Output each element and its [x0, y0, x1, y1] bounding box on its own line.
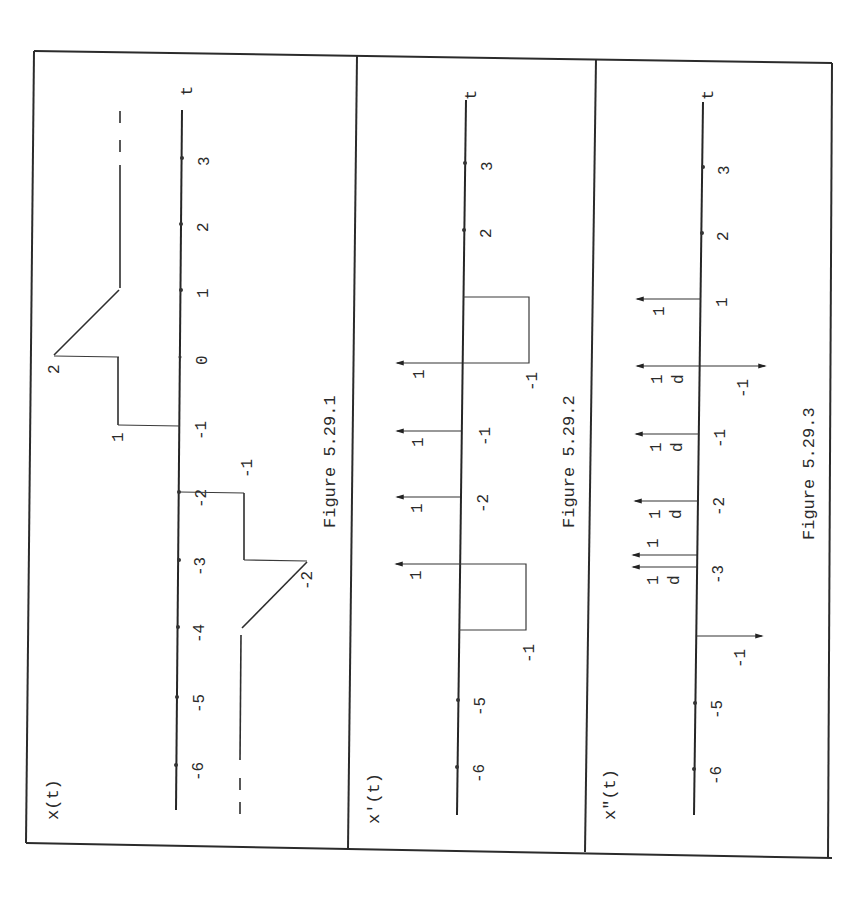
impulse-labels: 1 1 1 1 -1 -1 [408, 369, 542, 663]
panel-divider-2 [585, 59, 596, 852]
impulse-label: -1 [735, 379, 753, 398]
tick-label: -6 [708, 766, 726, 785]
level-label: -1 [521, 644, 539, 663]
doublet-labels: d d d d [666, 374, 688, 585]
doublet-label: d [670, 374, 688, 384]
tick-label: -6 [471, 764, 489, 783]
tick-label: -5 [709, 700, 727, 719]
impulses [396, 363, 462, 564]
tick-labels: 3 2 -1 -2 -5 -6 [471, 161, 497, 783]
impulse-label: 1 [647, 509, 665, 519]
frame [26, 51, 832, 858]
signal-label-x-prime: x′(t) [365, 773, 384, 824]
impulse-label: 1 [645, 538, 663, 548]
tick-label: 1 [195, 288, 213, 298]
axis-label-t: t [699, 90, 718, 100]
frame-left-edge [26, 51, 34, 843]
axis-label-t: t [462, 90, 481, 100]
impulse-label: 1 [410, 437, 428, 447]
impulse-label: 1 [651, 306, 669, 316]
tick-label: -1 [193, 421, 211, 440]
tick-labels: 3 2 1 -1 -2 -3 -5 -6 [708, 165, 734, 785]
time-axis [457, 100, 466, 815]
impulse-label: -1 [732, 649, 750, 668]
doublet-label: d [669, 442, 687, 452]
impulse-label: 1 [645, 575, 663, 585]
frame-bottom-edge [26, 843, 832, 858]
tick-label: -2 [475, 494, 493, 513]
tick-label: -1 [712, 429, 730, 448]
panel-x-prime: x′(t) t 3 2 -1 -2 -5 -6 [365, 90, 579, 824]
time-axis [694, 102, 703, 815]
signal-label-x: x(t) [44, 779, 63, 820]
tick-label: -5 [472, 697, 490, 716]
tick-label: -6 [190, 762, 208, 781]
signal-label-x-double-prime: x″(t) [601, 769, 620, 820]
frame-top-edge [34, 51, 832, 63]
value-labels: 2 1 -1 -2 [46, 364, 317, 590]
tick-label: 2 [478, 228, 496, 238]
impulse-label: 1 [411, 369, 429, 379]
impulse-label: 1 [648, 442, 666, 452]
figure-caption-3: Figure 5.29.3 [800, 407, 819, 540]
figure-caption-1: Figure 5.29.1 [321, 395, 340, 528]
tick-label: 3 [479, 161, 497, 171]
panel-x-double-prime: x″(t) t 3 2 1 -1 -2 -3 -5 -6 [601, 90, 819, 820]
impulse-label: 1 [649, 374, 667, 384]
tick-label: 3 [196, 156, 214, 166]
tick-label: 3 [716, 165, 734, 175]
figure-canvas: x(t) t 3 2 1 0 -1 -2 -3 -4 -5 -6 [0, 0, 842, 918]
tick-label: -4 [191, 624, 209, 643]
time-axis [176, 110, 182, 810]
tick-label: 0 [194, 355, 212, 365]
pulse-segments [459, 297, 529, 630]
value-label-neg-peak: -2 [299, 571, 317, 590]
impulse-label: 1 [409, 503, 427, 513]
frame-right-edge [828, 63, 832, 858]
doublet-label: d [668, 509, 686, 519]
scanned-page: x(t) t 3 2 1 0 -1 -2 -3 -4 -5 -6 [0, 0, 842, 918]
level-label: -1 [524, 372, 542, 391]
tick-label: 2 [715, 231, 733, 241]
panel-divider-1 [348, 56, 357, 849]
value-label-step: 1 [110, 432, 128, 442]
tick-label: -3 [192, 557, 210, 576]
impulse-label: 1 [408, 570, 426, 580]
value-label-neg-step: -1 [239, 459, 257, 478]
figure-caption-2: Figure 5.29.2 [560, 395, 579, 528]
tick-label: -2 [711, 497, 729, 516]
tick-label: 1 [714, 297, 732, 307]
tick-label: 2 [195, 222, 213, 232]
tick-labels: 3 2 1 0 -1 -2 -3 -4 -5 -6 [190, 156, 214, 781]
panel-x: x(t) t 3 2 1 0 -1 -2 -3 -4 -5 -6 [44, 86, 340, 820]
doublet-label: d [666, 575, 684, 585]
axis-label-t: t [178, 86, 197, 96]
tick-label: -3 [710, 565, 728, 584]
tick-label: -1 [477, 427, 495, 446]
value-label-peak: 2 [46, 364, 64, 374]
tick-label: -5 [191, 694, 209, 713]
